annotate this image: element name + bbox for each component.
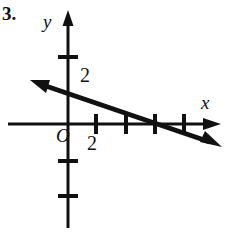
x-axis-label: x xyxy=(201,93,209,112)
origin-label: O xyxy=(56,126,70,145)
y-axis-label: y xyxy=(43,12,51,31)
y-axis-arrowhead-icon xyxy=(63,10,74,26)
graph-figure: 3. y x O 2 2 xyxy=(0,0,230,232)
y-axis-tick-label-2: 2 xyxy=(80,65,90,85)
coordinate-plane-svg xyxy=(0,0,230,232)
plotted-line-right-arrowhead-icon xyxy=(200,131,222,147)
x-axis-tick-label-2: 2 xyxy=(87,133,97,153)
plotted-line-left-arrowhead-icon xyxy=(30,80,50,93)
x-axis-arrowhead-icon xyxy=(203,118,221,130)
